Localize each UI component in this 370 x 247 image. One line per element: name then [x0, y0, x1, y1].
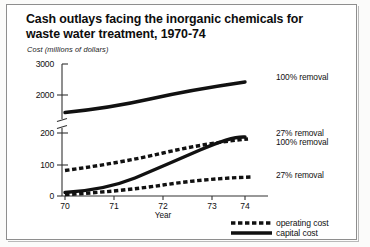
annotation-capital-100: 100% removal: [276, 72, 328, 82]
annotation-operating-27: 27% removal: [276, 170, 324, 180]
x-axis-title: Year: [143, 211, 183, 220]
x-tick-label-74: 74: [234, 201, 256, 211]
y-tick-label-3000: 3000: [20, 59, 54, 69]
x-tick-label-73: 73: [201, 201, 223, 211]
legend-label-operating: operating cost: [276, 218, 329, 228]
x-tick-label-71: 71: [103, 201, 125, 211]
x-tick-label-72: 72: [152, 201, 174, 211]
series-capital-27-line: [65, 137, 245, 193]
series-capital-100-line: [65, 82, 245, 113]
annotation-operating-100: 100% removal: [276, 137, 328, 147]
chart-figure: Cash outlays facing the inorganic chemic…: [0, 0, 370, 247]
legend-label-capital: capital cost: [276, 228, 318, 238]
y-tick-label-2000: 2000: [20, 90, 54, 100]
x-tick-label-70: 70: [54, 201, 76, 211]
y-tick-label-0: 0: [20, 191, 54, 201]
y-tick-label-100: 100: [20, 160, 54, 170]
y-tick-label-200: 200: [20, 128, 54, 138]
series-operating-100-line: [65, 139, 248, 171]
series-operating-27-line: [65, 177, 252, 195]
